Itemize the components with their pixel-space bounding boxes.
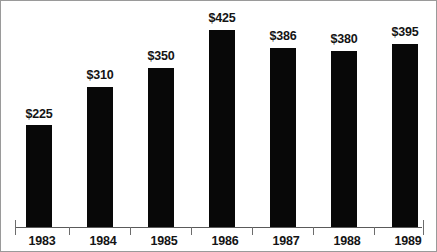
x-axis-label-1984: 1984 xyxy=(77,234,129,248)
x-axis-label-1985: 1985 xyxy=(138,234,190,248)
bar-value-label-1985: $350 xyxy=(135,49,187,63)
bar-value-label-1986: $425 xyxy=(196,11,248,25)
axis-tick-end xyxy=(423,220,424,235)
bar-value-label-1989: $395 xyxy=(379,25,431,39)
axis-tick-1 xyxy=(69,227,70,235)
bar-value-label-1984: $310 xyxy=(74,68,126,82)
axis-tick-4 xyxy=(252,227,253,235)
axis-tick-start xyxy=(15,220,16,235)
bar-chart: $225 $310 $350 $425 $386 $380 $395 1983 … xyxy=(0,0,437,252)
axis-tick-5 xyxy=(313,227,314,235)
bar-1986 xyxy=(209,30,235,228)
axis-tick-2 xyxy=(130,227,131,235)
axis-tick-6 xyxy=(374,227,375,235)
bar-value-label-1983: $225 xyxy=(13,107,65,121)
bar-1983 xyxy=(26,125,52,228)
x-axis-label-1986: 1986 xyxy=(199,234,251,248)
x-axis-line xyxy=(15,227,422,228)
axis-tick-3 xyxy=(191,227,192,235)
x-axis-label-1987: 1987 xyxy=(260,234,312,248)
x-axis-label-1988: 1988 xyxy=(321,234,373,248)
bar-value-label-1987: $386 xyxy=(257,29,309,43)
x-axis-label-1989: 1989 xyxy=(382,234,434,248)
plot-area: $225 $310 $350 $425 $386 $380 $395 xyxy=(1,1,437,228)
bar-value-label-1988: $380 xyxy=(318,32,370,46)
bar-1985 xyxy=(148,68,174,228)
bar-1988 xyxy=(331,51,357,228)
x-axis-label-1983: 1983 xyxy=(16,234,68,248)
bar-1989 xyxy=(392,44,418,228)
bar-1987 xyxy=(270,48,296,228)
bar-1984 xyxy=(87,87,113,228)
